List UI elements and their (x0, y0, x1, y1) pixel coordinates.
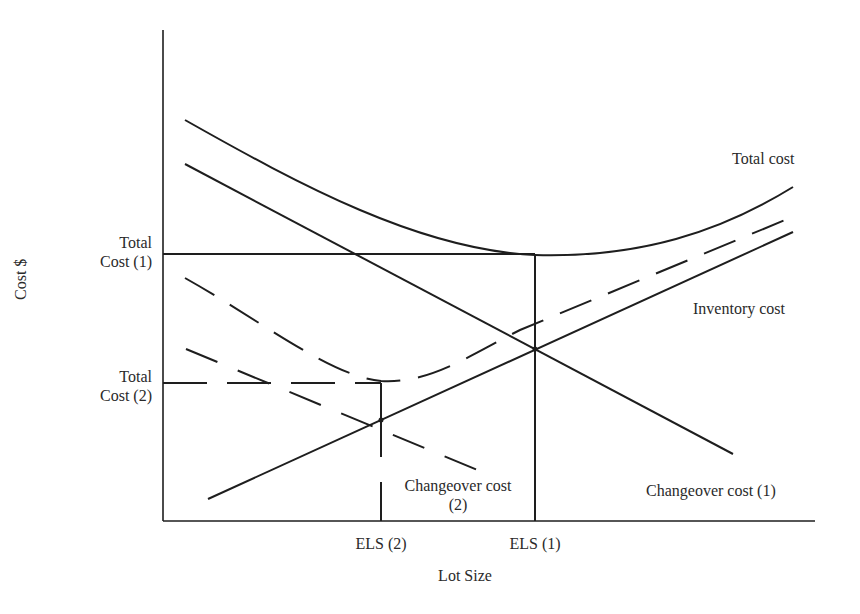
changeover-cost-1-label: Changeover cost (1) (646, 481, 776, 500)
y-axis-label: Cost $ (12, 259, 30, 300)
inventory-cost-line (208, 232, 793, 499)
els-1-intersection-point (533, 347, 538, 352)
total-cost-label: Total cost (732, 149, 794, 168)
y-tick-total-cost-2-line1: Total (80, 367, 152, 386)
y-tick-total-cost-1-line1: Total (80, 233, 152, 252)
x-tick-els-1: ELS (1) (495, 534, 575, 553)
changeover-cost-1-line (185, 164, 733, 454)
x-tick-els-2: ELS (2) (341, 534, 421, 553)
y-tick-total-cost-2: Total Cost (2) (80, 367, 152, 405)
inventory-cost-label: Inventory cost (693, 299, 785, 318)
changeover-cost-2-label-line2: (2) (384, 495, 532, 514)
x-axis-label: Lot Size (415, 566, 515, 585)
y-tick-total-cost-1: Total Cost (1) (80, 233, 152, 271)
changeover-cost-2-label-line1: Changeover cost (384, 476, 532, 495)
els-2-intersection-point (379, 418, 384, 423)
y-tick-total-cost-1-line2: Cost (1) (80, 252, 152, 271)
total-cost-curve (185, 120, 793, 255)
y-tick-total-cost-2-line2: Cost (2) (80, 386, 152, 405)
changeover-cost-2-label: Changeover cost (2) (384, 476, 532, 514)
